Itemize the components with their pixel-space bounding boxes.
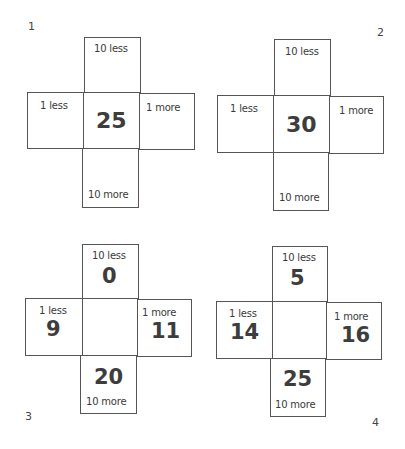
- cell-1-more[interactable]: 1 more: [139, 93, 195, 150]
- label-10-less: 10 less: [285, 46, 319, 57]
- label-10-less: 10 less: [282, 252, 316, 263]
- value-1-more: 11: [151, 319, 180, 343]
- cell-10-less[interactable]: 10 less: [84, 37, 141, 94]
- cell-1-more[interactable]: 1 more: [329, 96, 384, 154]
- cell-10-more[interactable]: 25 10 more: [270, 358, 326, 417]
- label-1-more: 1 more: [146, 102, 180, 113]
- value-1-less: 9: [46, 317, 61, 341]
- cell-10-more[interactable]: 10 more: [82, 148, 139, 208]
- label-10-more: 10 more: [275, 399, 315, 410]
- cell-center[interactable]: [272, 301, 328, 359]
- value-1-less: 14: [230, 320, 259, 344]
- cell-center[interactable]: 30: [273, 95, 331, 153]
- cell-1-less[interactable]: 1 less: [27, 92, 85, 149]
- cell-10-more[interactable]: 10 more: [273, 152, 329, 211]
- label-1-more: 1 more: [339, 105, 373, 116]
- value-10-more: 25: [283, 367, 312, 391]
- center-number: 30: [286, 112, 317, 137]
- label-10-less: 10 less: [94, 43, 128, 54]
- label-1-less: 1 less: [40, 100, 68, 111]
- label-1-more: 1 more: [334, 311, 368, 322]
- label-10-less: 10 less: [92, 250, 126, 261]
- label-10-more: 10 more: [88, 189, 128, 200]
- puzzle-number: 2: [377, 26, 384, 39]
- label-1-more: 1 more: [142, 307, 176, 318]
- puzzle-number: 4: [372, 416, 379, 429]
- value-10-more: 20: [94, 365, 123, 389]
- value-1-more: 16: [341, 323, 370, 347]
- label-1-less: 1 less: [229, 308, 257, 319]
- puzzle-number: 3: [25, 410, 32, 423]
- label-1-less: 1 less: [39, 305, 67, 316]
- cell-10-less[interactable]: 10 less 5: [272, 246, 328, 303]
- label-10-more: 10 more: [86, 396, 126, 407]
- cell-center[interactable]: 25: [83, 92, 141, 149]
- cell-1-more[interactable]: 1 more 11: [137, 299, 192, 357]
- puzzle-number: 1: [28, 20, 35, 33]
- cell-1-more[interactable]: 1 more 16: [326, 302, 382, 360]
- cell-10-less[interactable]: 10 less 0: [82, 244, 139, 300]
- cell-1-less[interactable]: 1 less 14: [216, 301, 274, 359]
- value-10-less: 5: [290, 266, 305, 290]
- cell-10-less[interactable]: 10 less: [274, 39, 331, 96]
- value-10-less: 0: [102, 264, 117, 288]
- label-1-less: 1 less: [230, 103, 258, 114]
- cell-1-less[interactable]: 1 less: [217, 95, 275, 153]
- cell-1-less[interactable]: 1 less 9: [25, 298, 84, 356]
- center-number: 25: [96, 108, 127, 133]
- cell-center[interactable]: [82, 298, 139, 356]
- label-10-more: 10 more: [279, 192, 319, 203]
- cell-10-more[interactable]: 20 10 more: [80, 355, 137, 414]
